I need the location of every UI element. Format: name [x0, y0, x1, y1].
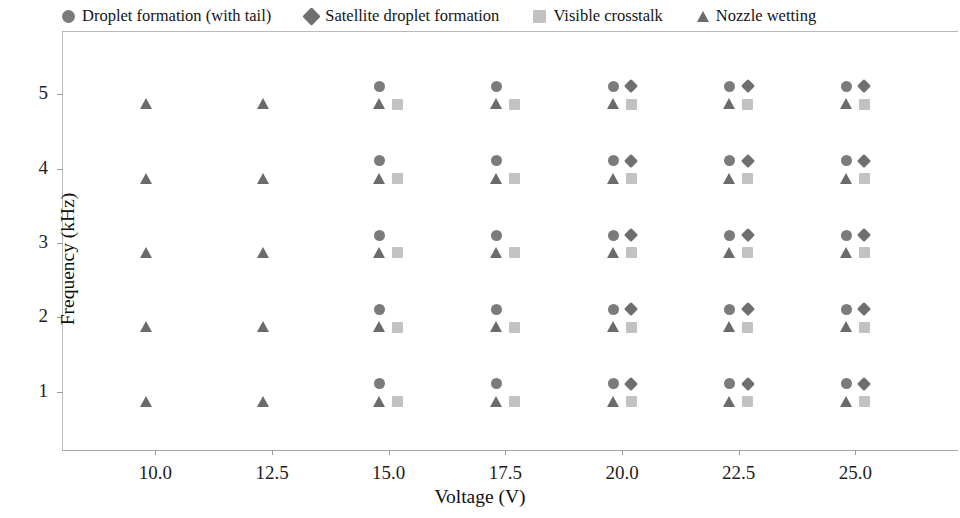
- y-axis-tick: 1: [57, 392, 63, 393]
- data-point: [608, 155, 619, 166]
- data-point: [857, 228, 871, 242]
- legend-entry[interactable]: Droplet formation (with tail): [62, 8, 271, 25]
- data-point: [509, 99, 520, 110]
- data-point: [742, 99, 753, 110]
- data-point: [373, 396, 385, 407]
- x-axis-tick: [739, 450, 740, 455]
- x-axis-tick: [622, 450, 623, 455]
- data-point: [392, 173, 403, 184]
- data-point: [724, 378, 735, 389]
- data-point: [723, 396, 735, 407]
- data-point: [626, 322, 637, 333]
- data-point: [841, 304, 852, 315]
- data-point: [140, 173, 152, 184]
- data-point: [742, 322, 753, 333]
- data-point: [490, 321, 502, 332]
- data-point: [723, 98, 735, 109]
- data-point: [857, 154, 871, 168]
- data-point: [859, 396, 870, 407]
- data-point: [392, 247, 403, 258]
- data-point: [392, 322, 403, 333]
- data-point: [491, 304, 502, 315]
- data-point: [624, 154, 638, 168]
- data-point: [626, 173, 637, 184]
- chart-legend: Droplet formation (with tail)Satellite d…: [62, 2, 942, 30]
- data-point: [724, 155, 735, 166]
- data-point: [257, 173, 269, 184]
- y-axis-tick-label: 1: [39, 381, 49, 400]
- data-point: [724, 304, 735, 315]
- data-point: [626, 396, 637, 407]
- data-point: [841, 378, 852, 389]
- data-point: [509, 396, 520, 407]
- data-point: [608, 230, 619, 241]
- plot-area: 12345 10.012.515.017.520.022.525.0: [62, 31, 958, 451]
- data-point: [374, 304, 385, 315]
- x-axis-tick-label: 10.0: [139, 463, 172, 482]
- data-point: [491, 230, 502, 241]
- data-point: [140, 396, 152, 407]
- data-point: [723, 247, 735, 258]
- data-point: [724, 230, 735, 241]
- data-point: [742, 173, 753, 184]
- data-point: [392, 99, 403, 110]
- data-point: [742, 396, 753, 407]
- data-point: [257, 321, 269, 332]
- data-point: [724, 81, 735, 92]
- y-axis-tick-label: 4: [39, 158, 49, 177]
- legend-label: Satellite droplet formation: [325, 8, 499, 25]
- data-point: [626, 247, 637, 258]
- data-point: [859, 247, 870, 258]
- legend-entry[interactable]: Nozzle wetting: [697, 8, 816, 25]
- data-point: [373, 98, 385, 109]
- legend-label: Visible crosstalk: [553, 8, 662, 25]
- data-point: [857, 302, 871, 316]
- data-point: [373, 247, 385, 258]
- data-point: [607, 321, 619, 332]
- data-point: [608, 378, 619, 389]
- data-point: [373, 173, 385, 184]
- y-axis-tick: 5: [57, 94, 63, 95]
- data-point: [607, 173, 619, 184]
- data-point: [374, 155, 385, 166]
- data-point: [741, 302, 755, 316]
- data-point: [491, 155, 502, 166]
- scatter-chart-figure: Droplet formation (with tail)Satellite d…: [0, 0, 960, 518]
- data-point: [859, 99, 870, 110]
- legend-entry[interactable]: Visible crosstalk: [533, 8, 662, 25]
- data-point: [491, 81, 502, 92]
- square-marker-icon: [533, 10, 546, 23]
- data-point: [840, 98, 852, 109]
- data-point: [840, 173, 852, 184]
- data-point: [859, 322, 870, 333]
- data-point: [841, 230, 852, 241]
- data-point: [257, 247, 269, 258]
- x-axis-title: Voltage (V): [0, 486, 960, 508]
- y-axis-tick-label: 2: [39, 306, 49, 325]
- data-point: [490, 396, 502, 407]
- data-point: [859, 173, 870, 184]
- data-point: [374, 230, 385, 241]
- y-axis-tick: 4: [57, 169, 63, 170]
- data-point: [509, 247, 520, 258]
- data-point: [857, 79, 871, 93]
- data-point: [374, 81, 385, 92]
- circle-marker-icon: [62, 10, 75, 23]
- data-point: [490, 173, 502, 184]
- data-point: [742, 247, 753, 258]
- data-point: [257, 98, 269, 109]
- data-point: [741, 228, 755, 242]
- legend-entry[interactable]: Satellite droplet formation: [305, 8, 499, 25]
- axis-top-spine: [62, 31, 958, 32]
- data-point: [624, 228, 638, 242]
- x-axis-tick-label: 12.5: [255, 463, 288, 482]
- data-point: [608, 304, 619, 315]
- x-axis-tick: [505, 450, 506, 455]
- data-point: [741, 79, 755, 93]
- y-axis-tick-label: 5: [39, 83, 49, 102]
- data-point: [841, 81, 852, 92]
- data-point: [509, 322, 520, 333]
- x-axis-tick-label: 22.5: [722, 463, 755, 482]
- data-point: [257, 396, 269, 407]
- data-point: [509, 173, 520, 184]
